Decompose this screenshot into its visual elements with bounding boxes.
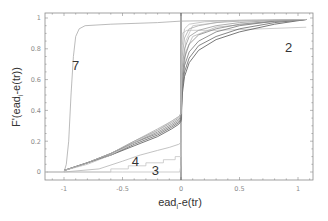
x-tick-label: 1 (296, 185, 300, 193)
cdf-curve-4 (64, 20, 306, 173)
x-axis-title: eadi-e(tr) (158, 196, 202, 210)
y-tick-label: 0 (37, 168, 41, 176)
x-axis-title-rest: -e(tr) (178, 196, 202, 208)
x-tick-label: -0.5 (116, 185, 129, 193)
curve-label-7: 7 (72, 58, 79, 73)
curve-label-4: 4 (132, 154, 139, 169)
cdf-curve-f (64, 20, 306, 171)
curve-label-2: 2 (285, 40, 292, 55)
cdf-chart: -1-0.500.5100.20.40.60.81 7243 eadi-e(tr… (0, 0, 328, 221)
plot-frame (45, 13, 313, 180)
x-axis-title-main: ead (158, 196, 176, 208)
cdf-curve-e (64, 20, 306, 171)
cdf-curve-d (64, 20, 306, 171)
cdf-curve-7 (47, 20, 307, 173)
x-tick-label: -1 (61, 185, 67, 193)
y-tick-label: 0.6 (31, 76, 41, 84)
y-axis-title: F'(eadi-e(tr)) (10, 67, 24, 127)
x-tick-label: 0 (179, 185, 183, 193)
x-tick-label: 0.5 (234, 185, 244, 193)
axis-ticks (45, 13, 313, 180)
cdf-curve-g (64, 20, 306, 171)
cdf-curve-b (64, 20, 306, 171)
y-tick-label: 0.4 (31, 107, 41, 115)
y-axis-title-rest: -e(tr)) (10, 67, 22, 95)
curve-label-3: 3 (152, 163, 159, 178)
cdf-curve-c (64, 20, 306, 171)
cdf-curve-3 (64, 20, 306, 173)
y-tick-label: 1 (37, 14, 41, 22)
y-tick-label: 0.2 (31, 138, 41, 146)
cdf-curve-2 (47, 27, 307, 172)
y-tick-label: 0.8 (31, 45, 41, 53)
axis-tick-labels: -1-0.500.5100.20.40.60.81 (31, 14, 300, 193)
cdf-curve-a (64, 20, 306, 171)
y-axis-title-main: F'(ead (10, 96, 22, 127)
cdf-curves (47, 20, 307, 173)
